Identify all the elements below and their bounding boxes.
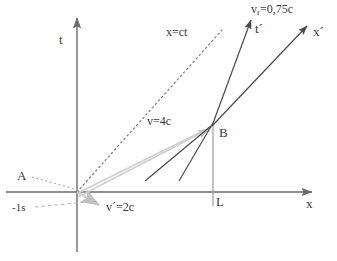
x-axis-label: x: [306, 197, 313, 210]
x-prime-axis-label: x´: [313, 25, 324, 38]
t-axis-label: t: [59, 33, 63, 46]
relative-velocity-label: vr=0,75c: [251, 3, 293, 17]
diagram-canvas: [0, 0, 337, 261]
minkowski-diagram: t x x=ct vr=0,75c t´ x´ v=4c v´=2c A B L…: [0, 0, 337, 261]
v-prime-2c-arrow: [77, 192, 99, 205]
point-a-leader-line: [32, 177, 75, 189]
point-a-label: A: [17, 169, 26, 182]
x-prime-axis-line: [212, 26, 307, 126]
minus-one-second-label: -1s: [12, 202, 25, 213]
relative-velocity-value: =0,75c: [260, 2, 293, 16]
converging-segment-2: [179, 123, 213, 181]
point-l-label: L: [216, 195, 224, 208]
light-cone-label: x=ct: [166, 26, 187, 38]
t-prime-axis-label: t´: [255, 22, 263, 35]
velocity-v-label: v=4c: [147, 115, 171, 127]
converging-segment-1: [145, 126, 211, 181]
velocity-v-prime-label: v´=2c: [106, 201, 134, 213]
point-b-label: B: [219, 126, 228, 139]
minus-one-second-leader-line: [35, 201, 97, 207]
t-prime-axis-line: [212, 20, 251, 126]
light-cone-line: [77, 30, 222, 192]
